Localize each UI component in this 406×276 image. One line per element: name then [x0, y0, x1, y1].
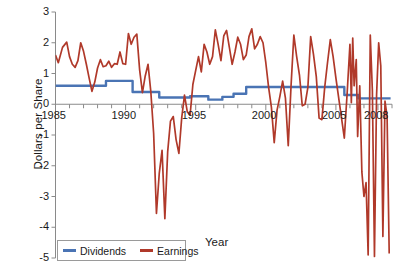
legend-label-dividends: Dividends — [80, 245, 126, 257]
legend-swatch-earnings — [140, 249, 153, 251]
chart-legend: Dividends Earnings — [57, 240, 186, 261]
legend-label-earnings: Earnings — [157, 245, 198, 257]
y-tick-label: 1 — [22, 67, 49, 79]
x-tick-label: 2000 — [252, 109, 276, 121]
x-tick-label: 1990 — [112, 109, 136, 121]
x-tick-label: 2008 — [364, 109, 388, 121]
chart-figure: Dollars per Share Year 3210-1-2-3-4-5 19… — [0, 0, 406, 276]
x-tick-label: 2005 — [322, 109, 346, 121]
x-axis-title: Year — [205, 236, 228, 248]
chart-plot-area — [0, 0, 406, 276]
x-tick-label: 1995 — [182, 109, 206, 121]
series-layer — [56, 29, 391, 257]
x-tick-label: 1985 — [42, 109, 66, 121]
legend-swatch-dividends — [63, 249, 76, 251]
y-tick-label: -1 — [22, 128, 49, 140]
legend-item-dividends: Dividends — [63, 245, 126, 257]
y-tick-label: 0 — [22, 97, 49, 109]
series-line-dividends — [56, 81, 391, 100]
y-tick-label: -2 — [22, 159, 49, 171]
legend-item-earnings: Earnings — [140, 245, 198, 257]
y-tick-label: -5 — [22, 251, 49, 263]
y-tick-label: -3 — [22, 190, 49, 202]
y-tick-label: -4 — [22, 220, 49, 232]
y-tick-label: 2 — [22, 36, 49, 48]
series-line-earnings — [56, 29, 390, 257]
y-tick-label: 3 — [22, 5, 49, 17]
